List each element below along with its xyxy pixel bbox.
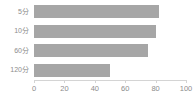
y-axis-category-labels: 5分 10分 60分 120分 xyxy=(0,2,32,80)
y-axis-tick-3: 120分 xyxy=(0,61,32,81)
bar-segment xyxy=(34,64,110,77)
x-axis-tick-mark xyxy=(34,80,35,83)
y-axis-tick-2: 60分 xyxy=(0,41,32,61)
x-axis-tick-label: 0 xyxy=(32,84,36,93)
plot-area xyxy=(34,2,186,80)
bar-row xyxy=(34,2,186,22)
x-axis-tick-mark xyxy=(186,80,187,83)
x-axis-tick-label: 20 xyxy=(60,84,68,93)
bar-segment xyxy=(34,5,159,18)
x-axis-tick-label: 60 xyxy=(121,84,129,93)
y-axis-tick-0: 5分 xyxy=(0,2,32,22)
bar-segment xyxy=(34,44,148,57)
bar-chart: 5分 10分 60分 120分 020406080100 xyxy=(0,0,196,103)
x-axis-tick-mark xyxy=(125,80,126,83)
y-axis-tick-1: 10分 xyxy=(0,22,32,42)
y-axis-tick-label: 60分 xyxy=(14,47,29,55)
bar-row xyxy=(34,22,186,42)
x-axis-tick-label: 100 xyxy=(180,84,193,93)
x-axis-tick-label: 40 xyxy=(91,84,99,93)
y-axis-tick-label: 10分 xyxy=(14,27,29,35)
y-axis-tick-label: 5分 xyxy=(18,8,29,16)
bar-row xyxy=(34,41,186,61)
x-axis-line xyxy=(34,80,186,81)
x-axis-tick-mark xyxy=(156,80,157,83)
x-axis-tick-mark xyxy=(64,80,65,83)
y-axis-tick-label: 120分 xyxy=(10,66,29,74)
bar-row xyxy=(34,61,186,81)
x-axis-tick-label: 80 xyxy=(151,84,159,93)
bar-segment xyxy=(34,25,156,38)
x-axis-tick-mark xyxy=(95,80,96,83)
